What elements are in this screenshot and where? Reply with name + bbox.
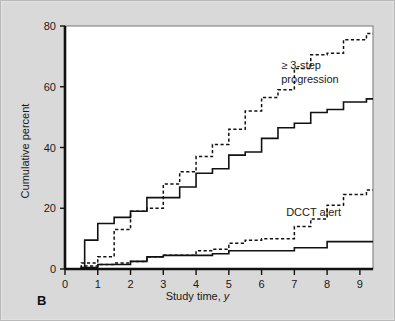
chart-canvas: 0204060800123456789 ≥ 3-stepprogressionD… (1, 1, 395, 321)
x-tick-label: 9 (357, 278, 363, 290)
x-tick-label: 8 (324, 278, 330, 290)
y-tick-label: 20 (44, 202, 56, 214)
x-tick-label: 0 (62, 278, 68, 290)
annotation-label-upper-line2: progression (281, 73, 338, 85)
x-tick-label: 6 (259, 278, 265, 290)
y-tick-label: 80 (44, 20, 56, 32)
x-tick-label: 4 (193, 278, 199, 290)
x-tick-label: 1 (95, 278, 101, 290)
y-axis-title: Cumulative percent (19, 71, 31, 231)
x-tick-label: 2 (127, 278, 133, 290)
x-tick-label: 7 (291, 278, 297, 290)
annotation-label-lower: DCCT alert (286, 206, 341, 218)
x-tick-label: 3 (160, 278, 166, 290)
panel-label: B (37, 293, 47, 308)
y-tick-label: 40 (44, 142, 56, 154)
annotation-label-upper: ≥ 3-step (281, 59, 321, 71)
y-tick-label: 60 (44, 81, 56, 93)
plot-area-background (65, 26, 373, 269)
x-axis-title: Study time, y (1, 290, 394, 302)
y-tick-label: 0 (50, 263, 56, 275)
plot-panel (65, 26, 373, 269)
figure-panel-b: 0204060800123456789 ≥ 3-stepprogressionD… (0, 0, 395, 321)
x-axis-title-unit: y (224, 290, 230, 302)
x-tick-label: 5 (226, 278, 232, 290)
x-axis-title-text: Study time, (166, 290, 224, 302)
